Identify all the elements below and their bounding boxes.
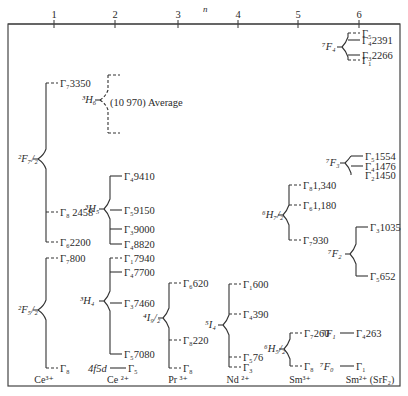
term-label: 4f5d <box>88 363 107 374</box>
level-label: Γ₃9000 <box>124 224 155 235</box>
level-label: Γ₄263 <box>356 328 381 339</box>
level-group-ce2-4f5d: 4f5dΓ₅ <box>88 363 138 374</box>
branch-down <box>223 325 229 367</box>
level-label: Γ₆620 <box>183 278 208 289</box>
level-label: Γ₃ <box>243 362 253 373</box>
level-group-sm2-7F3: ⁷F₃Γ₅1554Γ₄1476Γ₂1450 <box>326 151 396 181</box>
branch-up <box>223 284 229 325</box>
ion-label: Sm²⁺ (SrF₂) <box>346 374 395 386</box>
level-group-nd2-5I4: ⁵I₄Γ₁600Γ₄390Γ₅76Γ₃ <box>205 279 268 373</box>
average-annotation: (10 970) Average <box>110 97 183 109</box>
ion-label: Ce³⁺ <box>34 374 53 385</box>
branch-down <box>283 215 289 240</box>
term-label: ⁷F₀ <box>320 361 334 372</box>
branch-up <box>100 75 108 100</box>
level-label: Γ₄7700 <box>124 267 155 278</box>
level-label: Γ₈ <box>60 363 70 374</box>
branch-down <box>163 318 169 368</box>
level-group-ce2-3H6: ³H₆(10 970) Average <box>82 75 183 133</box>
ion-label: Nd ²⁺ <box>227 374 250 385</box>
branch-up <box>104 176 110 209</box>
axis-tick-label: 6 <box>356 9 361 20</box>
axis-tick-label: 4 <box>235 9 241 20</box>
level-label: Γ₇800 <box>60 253 85 264</box>
branch-down <box>100 100 108 133</box>
branch-up <box>283 185 289 215</box>
axis-tick-label: 2 <box>112 9 117 20</box>
level-label: Γ₅9150 <box>124 205 155 216</box>
branch-up <box>350 227 356 254</box>
level-label: Γ₃7460 <box>124 298 155 309</box>
level-label: Γ₅7080 <box>124 349 155 360</box>
level-label: Γ₅652 <box>370 271 395 282</box>
term-label: ⁷F₄ <box>322 41 336 52</box>
level-label: Γ₄390 <box>243 309 268 320</box>
level-label: Γ₄8820 <box>124 239 155 250</box>
branch-up <box>38 258 46 310</box>
axis-label-n: n <box>203 4 208 14</box>
branch-down <box>104 209 110 244</box>
axis-tick-label: 1 <box>51 9 56 20</box>
term-label: ³H₄ <box>80 295 95 306</box>
branch-down <box>342 47 348 60</box>
level-label: Γ₂1450 <box>365 170 396 181</box>
branch-down <box>38 159 46 242</box>
branch-down <box>38 310 46 368</box>
level-label: Γ₅ <box>128 363 138 374</box>
level-group-ce3-2F5/2: ²F₅/₂Γ₇800Γ₈ <box>18 253 85 374</box>
term-label: ³H₆ <box>82 94 97 105</box>
term-label: ⁵I₄ <box>205 319 216 330</box>
branch-down <box>345 163 351 175</box>
level-label: Γ₈ <box>183 363 193 374</box>
level-group-ce2-3H5: ³H₅Γ₄9410Γ₅9150Γ₃9000Γ₄8820 <box>85 171 155 250</box>
branch-down <box>104 301 110 354</box>
ion-label: Ce ²⁺ <box>107 374 129 385</box>
level-label: Γ₈ <box>304 361 314 372</box>
axis-tick-label: 3 <box>175 9 180 20</box>
branch-up <box>104 258 110 301</box>
level-label: Γ₁ <box>356 361 366 372</box>
level-label: Γ₃1035 <box>370 222 401 233</box>
energy-level-diagram: n 123456 ²F₇/₂Γ₇3350Γ₈ 2458Γ₆2200²F₅/₂Γ₇… <box>0 0 408 396</box>
level-group-sm2-7F0: ⁷F₀Γ₁ <box>320 361 366 372</box>
branch-up <box>342 33 348 47</box>
branch-up <box>345 156 351 163</box>
level-group-sm3-6H7/2: ⁶H₇/₂Γ₈1,340Γ₆1,180Γ₇930 <box>262 180 336 246</box>
level-label: Γ₇3350 <box>60 78 91 89</box>
level-label: Γ₆1,180 <box>303 200 336 211</box>
level-label: Γ₆2200 <box>60 237 91 248</box>
term-label: ⁷F₂ <box>328 248 342 259</box>
level-label: Γ₁7940 <box>124 253 155 264</box>
ion-labels: Ce³⁺Ce ²⁺Pr ³⁺Nd ²⁺Sm³⁺Sm²⁺ (SrF₂) <box>34 374 394 386</box>
ion-label: Pr ³⁺ <box>168 374 188 385</box>
level-label: Γ₇930 <box>303 235 328 246</box>
level-group-sm2-7F4: ⁷F₄Γ₅Γ₄2391Γ₃2266Γ₁ <box>322 28 393 66</box>
level-group-sm2-7F1: ⁷F₁Γ₄263 <box>322 328 381 339</box>
level-group-sm2-7F2: ⁷F₂Γ₃1035Γ₅652 <box>328 222 401 282</box>
term-label: ⁷F₁ <box>322 328 336 339</box>
branch-down <box>350 254 356 276</box>
axis-tick-label: 5 <box>295 9 300 20</box>
branch-up <box>38 83 46 159</box>
level-label: Γ₁600 <box>243 279 268 290</box>
branch-up <box>163 283 169 318</box>
level-label: Γ₄2391 <box>362 35 393 46</box>
level-label: Γ₈1,340 <box>303 180 336 191</box>
level-label: Γ₈220 <box>183 335 208 346</box>
term-label: ³H₅ <box>85 203 100 214</box>
level-group-ce2-3H4: ³H₄Γ₁7940Γ₄7700Γ₃7460Γ₅7080 <box>80 253 155 360</box>
ion-label: Sm³⁺ <box>289 374 311 385</box>
level-groups: ²F₇/₂Γ₇3350Γ₈ 2458Γ₆2200²F₅/₂Γ₇800Γ₈³H₆(… <box>18 28 401 374</box>
term-label: ⁷F₃ <box>326 157 340 168</box>
level-label: Γ₄9410 <box>124 171 155 182</box>
level-label: Γ₁ <box>362 55 372 66</box>
